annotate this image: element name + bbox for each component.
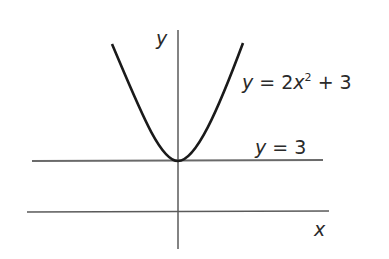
curve-equation-label: y = 2x2 + 3 — [242, 72, 352, 92]
curve-label-rest: + 3 — [312, 71, 352, 93]
line-label-lhs: y — [255, 136, 266, 158]
line-equation-label: y = 3 — [255, 138, 306, 157]
curve-label-var: x — [293, 71, 304, 93]
graph-svg — [0, 0, 389, 259]
x-axis-label: x — [314, 220, 325, 239]
curve-label-eq: = 2 — [253, 71, 293, 93]
curve-label-exponent: 2 — [305, 71, 312, 84]
graph: y x y = 2x2 + 3 y = 3 — [0, 0, 389, 259]
y-axis-label: y — [156, 29, 167, 48]
line-label-eq: = 3 — [266, 136, 306, 158]
curve-label-lhs: y — [242, 71, 253, 93]
